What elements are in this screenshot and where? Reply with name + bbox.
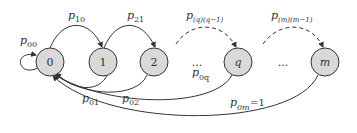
node-2: 2 [140, 48, 168, 76]
edge-p10 [50, 25, 102, 48]
svg-text:10: 10 [75, 15, 85, 24]
svg-text:=1: =1 [250, 97, 265, 108]
svg-text:0m: 0m [237, 103, 250, 112]
svg-text:p: p [271, 9, 278, 22]
node-m: m [311, 48, 339, 76]
svg-text:(q)(q−1): (q)(q−1) [193, 16, 223, 24]
svg-text:q: q [234, 56, 241, 69]
svg-text:p: p [186, 9, 193, 22]
svg-text:(m)(m−1): (m)(m−1) [278, 16, 313, 24]
node-0: 0 [36, 48, 64, 76]
svg-text:m: m [320, 56, 330, 69]
label-p00: p 00 [20, 34, 37, 49]
edge-pmm1 [263, 27, 323, 47]
svg-text:0q: 0q [199, 73, 209, 82]
edge-p00 [20, 54, 38, 70]
svg-text:00: 00 [27, 40, 37, 49]
node-1: 1 [89, 48, 117, 76]
svg-text:p: p [192, 66, 199, 79]
markov-chain-diagram: 0 1 2 q m ... ... p 00 p 10 p 21 p (q)(q… [0, 0, 357, 133]
node-q: q [224, 48, 252, 76]
svg-text:p: p [20, 34, 27, 47]
svg-text:p: p [230, 96, 237, 109]
label-p02: p 02 [122, 92, 139, 107]
svg-text:p: p [122, 92, 129, 105]
svg-text:p: p [82, 92, 89, 105]
svg-text:p: p [127, 9, 134, 22]
svg-text:1: 1 [100, 56, 107, 69]
label-p01: p 01 [82, 92, 99, 107]
edge-pqq1 [176, 27, 236, 47]
label-p21: p 21 [127, 9, 144, 24]
label-pmm1: p (m)(m−1) [271, 9, 313, 24]
svg-text:02: 02 [129, 98, 139, 107]
label-p10: p 10 [68, 9, 85, 24]
svg-text:2: 2 [151, 56, 158, 69]
edge-p21 [104, 25, 155, 48]
ellipsis-2: ... [278, 56, 289, 69]
svg-text:01: 01 [89, 98, 99, 107]
edge-p0m [53, 75, 318, 116]
svg-text:21: 21 [134, 15, 144, 24]
label-pqq1: p (q)(q−1) [186, 9, 223, 24]
svg-text:p: p [68, 9, 75, 22]
svg-text:0: 0 [47, 56, 54, 69]
